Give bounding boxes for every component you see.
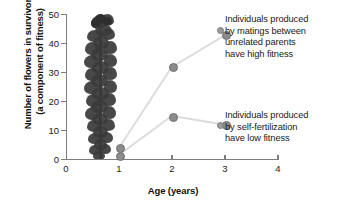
y-tick-30 (61, 72, 67, 73)
annotation-bullet-high (217, 27, 224, 34)
annotation-high-line1: Individuals produced (225, 14, 308, 26)
y-tick-0 (61, 159, 67, 160)
flowering-plant-photo (78, 14, 122, 159)
y-tick-label-10: 10 (39, 126, 59, 136)
data-point-self-fertilized-2 (169, 113, 178, 122)
y-tick-label-50: 50 (39, 10, 59, 20)
x-tick-label-1: 1 (109, 163, 129, 174)
annotation-high-fitness: Individuals produced by matings between … (225, 14, 308, 60)
plant-flower-bud (103, 17, 112, 25)
annotation-low-fitness: Individuals produced by self-fertilizati… (225, 110, 308, 145)
annotation-high-line4: have high fitness (225, 49, 308, 61)
x-tick-label-3: 3 (215, 163, 235, 174)
y-tick-label-40: 40 (39, 39, 59, 49)
plant-flower-bud (91, 19, 100, 27)
x-axis-title: Age (years) (67, 185, 279, 196)
figure-root: Number of flowers in survivors (a compon… (0, 0, 346, 209)
x-tick-label-2: 2 (162, 163, 182, 174)
x-tick-4 (277, 155, 278, 161)
y-tick-50 (61, 14, 67, 15)
x-tick-label-4: 4 (268, 163, 288, 174)
annotation-low-line2: by self-fertilization (225, 122, 308, 134)
y-tick-label-20: 20 (39, 97, 59, 107)
y-tick-40 (61, 43, 67, 44)
y-tick-label-30: 30 (39, 68, 59, 78)
annotation-bullet-low (217, 122, 224, 129)
data-point-outcrossed-2 (169, 63, 178, 72)
plant-leaf (93, 151, 105, 159)
y-tick-20 (61, 101, 67, 102)
data-point-self-fertilized-1 (116, 152, 125, 161)
y-axis-title-line1: Number of flowers in survivors (22, 0, 34, 147)
annotation-low-line3: have low fitness (225, 133, 308, 145)
series-line-outcrossed (171, 34, 225, 68)
y-tick-10 (61, 130, 67, 131)
annotation-high-line2: by matings between (225, 26, 308, 38)
x-tick-3 (224, 155, 225, 161)
y-axis-line (66, 14, 67, 160)
x-tick-2 (171, 155, 172, 161)
annotation-high-line3: unrelated parents (225, 37, 308, 49)
x-tick-label-0: 0 (56, 163, 76, 174)
annotation-low-line1: Individuals produced (225, 110, 308, 122)
